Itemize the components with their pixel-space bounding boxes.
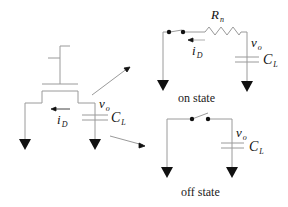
label-rn: Rn (211, 8, 224, 24)
label-cl-on: CL (263, 53, 278, 69)
label-vo-off: vo (236, 126, 247, 142)
off-right-wire (209, 119, 232, 172)
label-id-on: iD (192, 44, 202, 60)
label-id: iD (57, 113, 67, 129)
arrow-to-off-state (110, 136, 143, 145)
ground-icon (19, 139, 31, 150)
ground-icon (241, 81, 253, 92)
off-switch-open (192, 113, 208, 119)
resistor-rn (205, 27, 247, 35)
caption-off-state: off state (181, 186, 220, 198)
on-switch-dot-right (181, 30, 185, 34)
label-vo-on: vo (251, 36, 262, 52)
gate-step-input (48, 46, 70, 58)
ground-icon (226, 167, 238, 178)
label-cl: CL (111, 111, 126, 127)
arrow-head-up (124, 67, 130, 72)
arrow-head-down (139, 143, 145, 148)
circuit-diagram (0, 0, 288, 207)
off-switch-dot-right (206, 117, 210, 121)
arrow-to-on-state (92, 68, 128, 95)
off-switch-dot-left (190, 117, 194, 121)
id-arrowhead-on (188, 38, 193, 42)
id-arrowhead-left (51, 107, 56, 111)
on-switch-dot-left (167, 30, 171, 34)
ground-icon (89, 139, 101, 150)
caption-on-state: on state (178, 92, 215, 104)
on-left-wire (163, 32, 170, 88)
ground-icon (161, 167, 173, 178)
label-vo: vo (99, 97, 110, 113)
label-cl-off: CL (249, 140, 264, 156)
ground-icon (157, 80, 169, 91)
off-left-wire (167, 119, 192, 172)
on-switch-closed (170, 30, 182, 32)
